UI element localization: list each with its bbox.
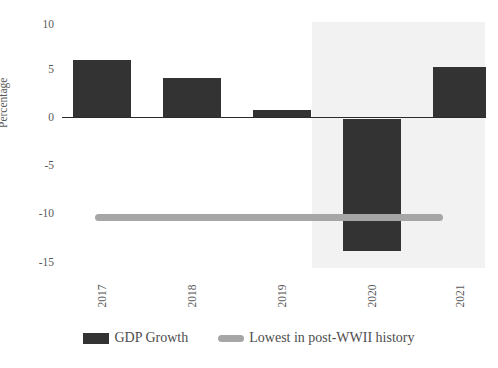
bar-2020 [343, 119, 401, 251]
y-tick-label-neg15: -15 [0, 257, 54, 269]
x-tick-label-2020: 2020 [366, 279, 378, 313]
chart-legend: GDP Growth Lowest in post-WWII history [0, 330, 498, 346]
bar-2017 [73, 60, 131, 118]
bar-2018 [163, 78, 221, 118]
legend-label-lowest-postwwii: Lowest in post-WWII history [249, 330, 414, 346]
y-tick-label-neg5: -5 [0, 160, 54, 172]
y-tick-label-5: 5 [0, 64, 54, 76]
legend-item-gdp-growth: GDP Growth [83, 330, 188, 346]
x-tick-label-2018: 2018 [186, 279, 198, 313]
y-axis-title: Percentage [0, 78, 9, 128]
legend-label-gdp-growth: GDP Growth [114, 330, 188, 346]
benchmark-line-lowest-postwwii [95, 214, 443, 221]
y-tick-label-neg10: -10 [0, 208, 54, 220]
legend-bar-swatch-icon [83, 333, 109, 344]
x-tick-label-2019: 2019 [276, 279, 288, 313]
zero-baseline [62, 117, 486, 118]
legend-item-lowest-postwwii: Lowest in post-WWII history [218, 330, 414, 346]
legend-line-swatch-icon [218, 335, 244, 342]
gdp-growth-bar-chart: 10 5 0 -5 -10 -15 Percentage 2017 2018 2… [0, 0, 498, 368]
bar-2021 [433, 67, 486, 118]
x-tick-label-2021: 2021 [454, 279, 466, 313]
x-tick-label-2017: 2017 [96, 279, 108, 313]
y-tick-label-10: 10 [0, 19, 54, 31]
